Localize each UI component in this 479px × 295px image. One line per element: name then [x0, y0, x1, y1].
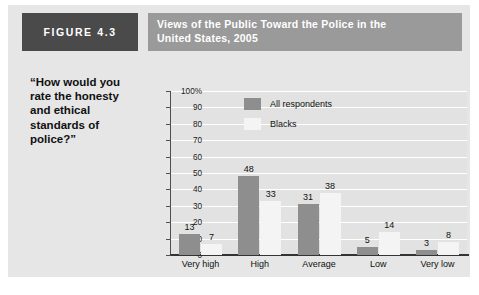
- bar-value-label: 7: [195, 232, 228, 242]
- bar-value-label: 48: [232, 164, 265, 174]
- figure-title-line-2: United States, 2005: [157, 32, 454, 46]
- x-tick-label: Very low: [397, 259, 477, 269]
- figure-title-line-1: Views of the Public Toward the Police in…: [157, 18, 454, 32]
- bar: [298, 204, 319, 255]
- bar: [260, 201, 281, 255]
- legend-swatch-all-respondents: [244, 98, 261, 110]
- bar: [201, 244, 222, 255]
- y-tick-label: 60: [142, 152, 202, 161]
- y-tick-label: 40: [142, 185, 202, 194]
- bar-value-label: 14: [373, 220, 406, 230]
- bar-value-label: 13: [173, 222, 206, 232]
- y-tick-label: 90: [142, 103, 202, 112]
- chart-legend: All respondents Blacks: [244, 95, 332, 135]
- gridline: [171, 173, 467, 174]
- figure-title-band: Views of the Public Toward the Police in…: [148, 13, 462, 51]
- y-tick-label: 80: [142, 119, 202, 128]
- bar: [416, 250, 437, 255]
- gridline: [171, 91, 467, 92]
- figure-panel: FIGURE 4.3 Views of the Public Toward th…: [8, 5, 470, 277]
- bar-value-label: 38: [314, 181, 347, 191]
- legend-swatch-blacks: [244, 118, 261, 130]
- figure-root: FIGURE 4.3 Views of the Public Toward th…: [0, 0, 479, 295]
- gridline: [171, 157, 467, 158]
- bar-value-label: 33: [254, 189, 287, 199]
- legend-label-all-respondents: All respondents: [270, 99, 332, 109]
- legend-item-all-respondents: All respondents: [244, 95, 332, 112]
- bar: [438, 242, 459, 255]
- legend-item-blacks: Blacks: [244, 115, 332, 132]
- y-tick-label: 70: [142, 136, 202, 145]
- figure-number-badge: FIGURE 4.3: [22, 13, 138, 51]
- y-tick-label: 100%: [142, 87, 202, 96]
- gridline: [171, 140, 467, 141]
- bar: [320, 193, 341, 255]
- y-tick-label: 30: [142, 201, 202, 210]
- legend-label-blacks: Blacks: [270, 119, 297, 129]
- y-tick-label: 50: [142, 169, 202, 178]
- bar: [357, 247, 378, 255]
- bar-value-label: 8: [432, 230, 465, 240]
- bar-chart: 0102030405060708090100% 1374833313851438…: [139, 83, 469, 279]
- bar: [379, 232, 400, 255]
- figure-question-text: “How would you rate the honesty and ethi…: [30, 75, 134, 146]
